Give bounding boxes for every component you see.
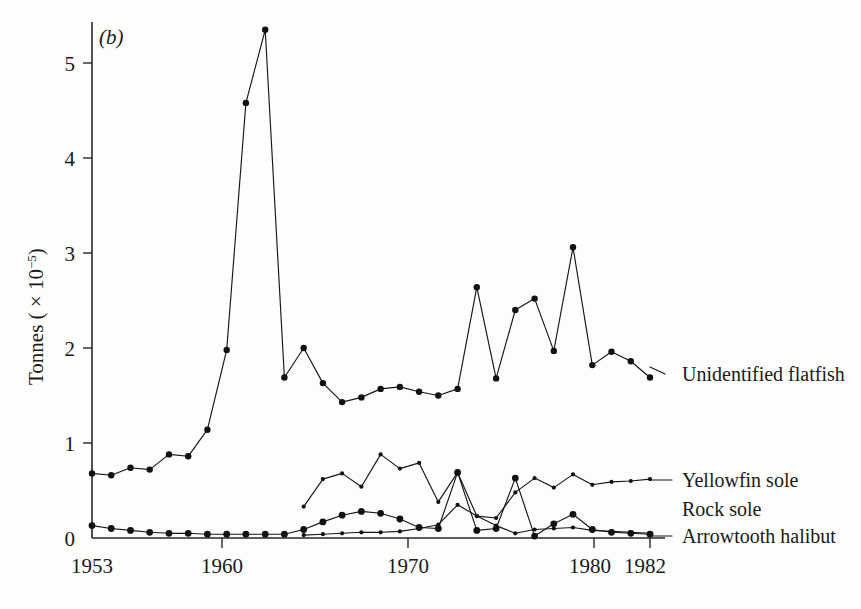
data-point	[127, 465, 133, 471]
data-point	[435, 392, 441, 398]
data-point	[494, 524, 498, 528]
leader-unidentified-flatfish	[650, 367, 665, 374]
data-point	[185, 530, 192, 537]
data-point	[358, 508, 365, 515]
data-point	[512, 307, 518, 313]
data-point	[377, 386, 383, 392]
data-point	[243, 100, 249, 106]
data-point	[417, 526, 421, 530]
data-point	[166, 451, 172, 457]
data-point	[590, 483, 594, 487]
data-point	[302, 533, 306, 537]
series-labels: Unidentified flatfish Yellowfin sole Roc…	[682, 363, 845, 547]
y-tick-label-1: 1	[65, 432, 76, 456]
data-point	[473, 527, 480, 534]
series-label-yellowfin-sole: Yellowfin sole	[682, 469, 798, 491]
data-point	[127, 527, 134, 534]
series-yellowfin-sole	[302, 452, 653, 520]
data-point	[185, 453, 191, 459]
data-point	[590, 528, 594, 532]
data-point	[454, 469, 461, 476]
series-label-unidentified-flatfish: Unidentified flatfish	[682, 363, 845, 385]
data-point	[108, 525, 115, 532]
data-point	[570, 511, 577, 518]
data-point	[397, 384, 403, 390]
data-point	[513, 490, 517, 494]
data-point	[398, 467, 402, 471]
data-point	[281, 531, 288, 538]
data-point	[629, 530, 633, 534]
data-point	[648, 531, 652, 535]
data-point	[377, 510, 384, 517]
data-point	[589, 362, 595, 368]
data-point	[550, 520, 557, 527]
data-point	[454, 386, 460, 392]
data-point	[609, 480, 613, 484]
data-point	[340, 471, 344, 475]
data-point	[436, 523, 440, 527]
data-point	[570, 244, 576, 250]
line-chart: (b) Tonnes ( × 10−5) 5 4 3 2 1 0	[0, 0, 861, 609]
y-tick-label-0: 0	[65, 527, 76, 551]
data-point	[262, 531, 269, 538]
series-path	[92, 30, 650, 476]
x-tick-label-1953: 1953	[71, 554, 113, 578]
series-label-rock-sole: Rock sole	[682, 498, 762, 520]
data-point	[493, 375, 499, 381]
data-point	[571, 525, 575, 529]
data-point	[456, 503, 460, 507]
y-axis-title-text: Tonnes ( × 10	[24, 269, 48, 385]
data-point	[204, 531, 211, 538]
data-point	[358, 394, 364, 400]
data-series-layer	[89, 27, 654, 540]
data-point	[379, 530, 383, 534]
y-axis-ticks: 5 4 3 2 1 0	[65, 52, 93, 551]
data-point	[224, 347, 230, 353]
y-tick-label-5: 5	[65, 52, 76, 76]
data-point	[281, 374, 287, 380]
data-point	[379, 452, 383, 456]
svg-text:Tonnes ( × 10−5): Tonnes ( × 10−5)	[24, 248, 48, 385]
data-point	[320, 519, 327, 526]
data-point	[417, 461, 421, 465]
data-point	[397, 516, 404, 523]
data-point	[513, 531, 517, 535]
series-rock-sole	[89, 469, 654, 539]
data-point	[147, 466, 153, 472]
x-tick-label-1982: 1982	[624, 554, 666, 578]
data-point	[301, 345, 307, 351]
data-point	[609, 529, 613, 533]
data-point	[204, 427, 210, 433]
y-tick-label-3: 3	[65, 242, 76, 266]
axes	[92, 22, 665, 538]
data-point	[300, 526, 307, 533]
data-point	[146, 529, 153, 536]
y-axis-title-exponent: −5	[24, 255, 39, 269]
data-point	[629, 479, 633, 483]
y-axis-title: Tonnes ( × 10−5)	[24, 248, 48, 385]
panel-label: (b)	[99, 25, 124, 49]
figure-panel-b: (b) Tonnes ( × 10−5) 5 4 3 2 1 0	[0, 0, 861, 609]
series-path	[92, 472, 650, 536]
data-point	[512, 475, 519, 482]
data-point	[571, 472, 575, 476]
data-point	[340, 531, 344, 535]
data-point	[339, 512, 346, 519]
data-point	[494, 516, 498, 520]
y-tick-label-4: 4	[65, 147, 76, 171]
series-unidentified-flatfish	[89, 27, 653, 479]
data-point	[302, 505, 306, 509]
series-label-arrowtooth-halibut: Arrowtooth halibut	[682, 525, 836, 547]
data-point	[339, 399, 345, 405]
data-point	[416, 389, 422, 395]
label-leader-lines	[650, 367, 672, 536]
data-point	[359, 485, 363, 489]
data-point	[531, 295, 537, 301]
data-point	[262, 27, 268, 33]
data-point	[533, 476, 537, 480]
data-point	[608, 349, 614, 355]
data-point	[320, 380, 326, 386]
data-point	[474, 284, 480, 290]
data-point	[321, 532, 325, 536]
x-axis-ticks: 1953 1960 1970 1980 1982	[71, 538, 666, 578]
